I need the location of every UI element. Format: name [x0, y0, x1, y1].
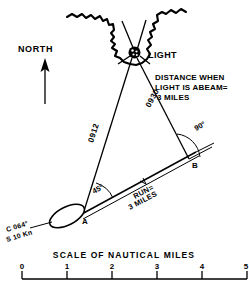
lighthouse-star-icon: [129, 47, 141, 59]
point-label-b: B: [192, 161, 198, 170]
scale-bar: [22, 271, 247, 279]
navigation-diagram: NORTH LIGHT DISTANCE WHEN LIGHT IS ABEAM…: [0, 0, 249, 285]
scale-tick-5: 5: [244, 262, 249, 271]
bearing-time-0912: 0912: [86, 122, 101, 144]
course-leader-line: [30, 222, 52, 228]
annotation-line-1: DISTANCE WHEN: [155, 73, 225, 82]
scale-tick-4: 4: [200, 262, 205, 271]
annotation-line-3: 3 MILES: [157, 93, 190, 102]
north-arrow-icon: [41, 58, 50, 104]
scale-tick-1: 1: [65, 262, 70, 271]
annotation-line-2: LIGHT IS ABEAM=: [155, 83, 228, 92]
scale-title: SCALE OF NAUTICAL MILES: [53, 250, 195, 260]
point-label-a: A: [82, 217, 88, 226]
scale-tick-0: 0: [20, 262, 25, 271]
angle-label-90: 90°: [193, 119, 207, 132]
ship-hull-icon: [46, 199, 88, 232]
north-label: NORTH: [18, 44, 53, 54]
scale-tick-2: 2: [110, 262, 115, 271]
scale-tick-3: 3: [155, 262, 160, 271]
light-label: LIGHT: [148, 50, 177, 60]
diagram-canvas: NORTH LIGHT DISTANCE WHEN LIGHT IS ABEAM…: [0, 0, 249, 285]
